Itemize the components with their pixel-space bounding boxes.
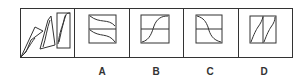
option-c-label[interactable]: C xyxy=(200,66,220,77)
option-d-figure xyxy=(250,16,276,43)
option-a-figure xyxy=(89,15,116,43)
option-d-label[interactable]: D xyxy=(254,66,274,77)
option-a-label[interactable]: A xyxy=(92,66,112,77)
option-b-figure xyxy=(141,15,169,43)
stem-figure xyxy=(21,13,70,57)
option-b-label[interactable]: B xyxy=(146,66,166,77)
option-c-figure xyxy=(196,15,222,43)
